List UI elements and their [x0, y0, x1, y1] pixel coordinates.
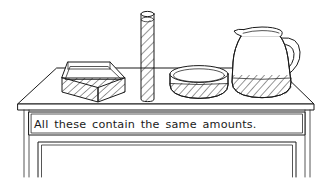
table-right-leg [305, 110, 310, 177]
illustration-scene: All these contain the same amounts. [0, 0, 335, 183]
bowl-top-rim [170, 66, 228, 83]
pitcher-rim [240, 27, 282, 36]
table-left-leg [24, 110, 29, 177]
tabletop-front-edge [18, 104, 314, 110]
table-lower-frame-panel [38, 142, 296, 177]
table-lower-frame-inner [42, 145, 293, 177]
box-rim-opening [62, 62, 125, 78]
container-pitcher [228, 27, 300, 102]
caption-text: All these contain the same amounts. [34, 118, 257, 131]
cylinder-top-rim [141, 11, 154, 16]
line-drawing-svg: All these contain the same amounts. [0, 0, 335, 183]
